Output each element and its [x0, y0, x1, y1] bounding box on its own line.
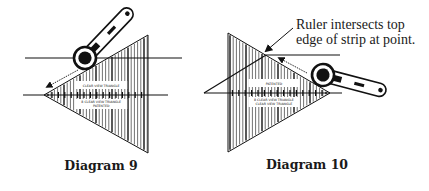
- annotation-arrow: [266, 28, 293, 51]
- annotation-pointer: [266, 28, 293, 51]
- diagram-10-caption: Diagram 10: [266, 157, 348, 172]
- annotation-line-1: Ruler intersects top: [296, 17, 415, 32]
- annotation-text: Ruler intersects top edge of strip at po…: [296, 17, 415, 47]
- diagram-9-drawing: CLEAR VIEW TRIANGLE8 CLEAR VIEW TRIANGLE…: [23, 2, 182, 153]
- diagram-figure: CLEAR VIEW TRIANGLE8 CLEAR VIEW TRIANGLE…: [0, 0, 429, 191]
- ruler-label: CLEAR VIEW TRIANGLE: [256, 102, 293, 106]
- ruler-label: PATENTED: [93, 104, 110, 108]
- diagram-9-caption: Diagram 9: [64, 158, 137, 173]
- ruler-label: CLEAR VIEW TRIANGLE: [83, 84, 120, 88]
- annotation-line-2: edge of strip at point.: [296, 32, 415, 47]
- ruler-label: PATENTED: [266, 82, 283, 86]
- diagram-10-drawing: PATENTED8 CLEAR VIEW TRIANGLECLEAR VIEW …: [204, 33, 389, 152]
